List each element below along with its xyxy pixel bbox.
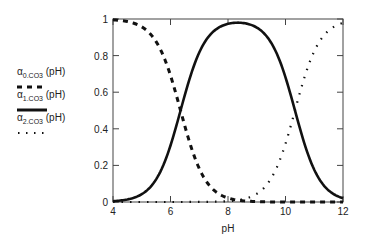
x-axis-label: pH: [222, 223, 235, 234]
y-tick-label: 0.2: [94, 160, 108, 171]
x-tick-label: 4: [110, 206, 116, 217]
alpha0-curve: [113, 20, 343, 202]
y-tick-label: 0.6: [94, 87, 108, 98]
y-tick-label: 0.4: [94, 124, 108, 135]
y-tick-label: 0.8: [94, 51, 108, 62]
plot-frame: [113, 19, 343, 202]
x-tick-label: 6: [168, 206, 174, 217]
y-tick-label: 1: [102, 14, 108, 25]
plot-area: 00.20.40.60.814681012pH: [0, 0, 365, 246]
x-tick-label: 12: [337, 206, 349, 217]
alpha1-curve: [113, 23, 343, 202]
x-tick-label: 8: [225, 206, 231, 217]
alpha2-curve: [113, 23, 343, 202]
x-tick-label: 10: [280, 206, 292, 217]
y-tick-label: 0: [102, 197, 108, 208]
